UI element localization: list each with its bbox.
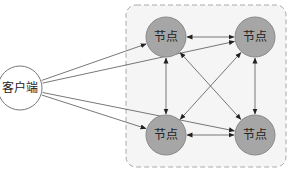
node-label: 节点 (243, 30, 267, 44)
client-node: 客户端 (0, 66, 42, 110)
client-label: 客户端 (2, 80, 38, 95)
distributed-cluster-diagram: 客户端 节点 节点 节点 节点 (0, 0, 293, 174)
node-label: 节点 (243, 128, 267, 142)
node-top-left: 节点 (146, 17, 186, 57)
node-label: 节点 (154, 30, 178, 44)
node-bottom-left: 节点 (146, 115, 186, 155)
node-top-right: 节点 (235, 17, 275, 57)
node-label: 节点 (154, 128, 178, 142)
node-bottom-right: 节点 (235, 115, 275, 155)
